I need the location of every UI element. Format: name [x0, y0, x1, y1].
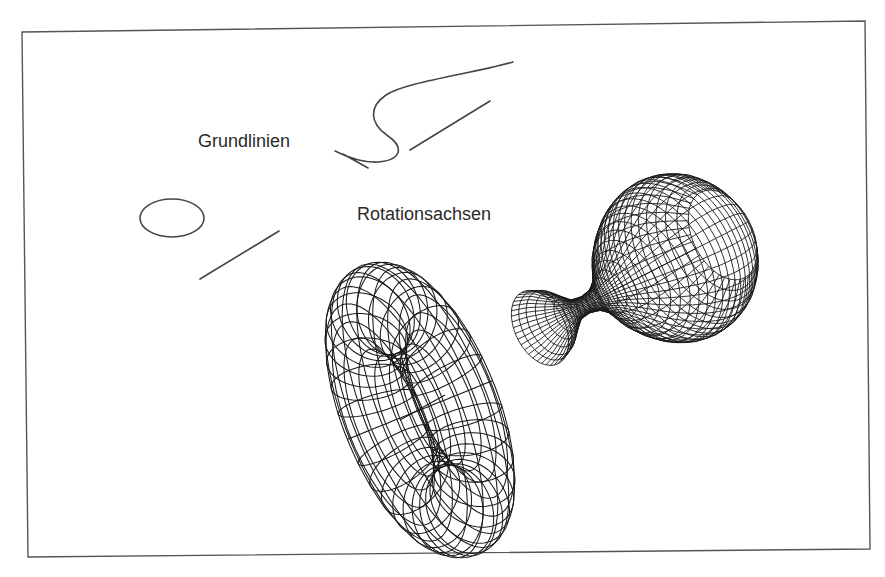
label-baselines: Grundlinien — [198, 132, 290, 150]
vase-profile-curve — [335, 62, 513, 168]
diagram-canvas — [0, 0, 885, 577]
profile-curves — [140, 62, 513, 279]
torus-meridian — [419, 381, 493, 411]
vase-rotation-axis — [410, 101, 490, 150]
label-rotation-axes: Rotationsachsen — [357, 205, 491, 223]
vase-meridian — [518, 248, 696, 339]
torus-wireframe — [325, 262, 515, 558]
torus-profile-ellipse — [140, 199, 204, 237]
vase-wireframe — [511, 174, 758, 366]
vase-meridian — [555, 204, 741, 306]
torus-rotation-axis — [200, 231, 279, 279]
